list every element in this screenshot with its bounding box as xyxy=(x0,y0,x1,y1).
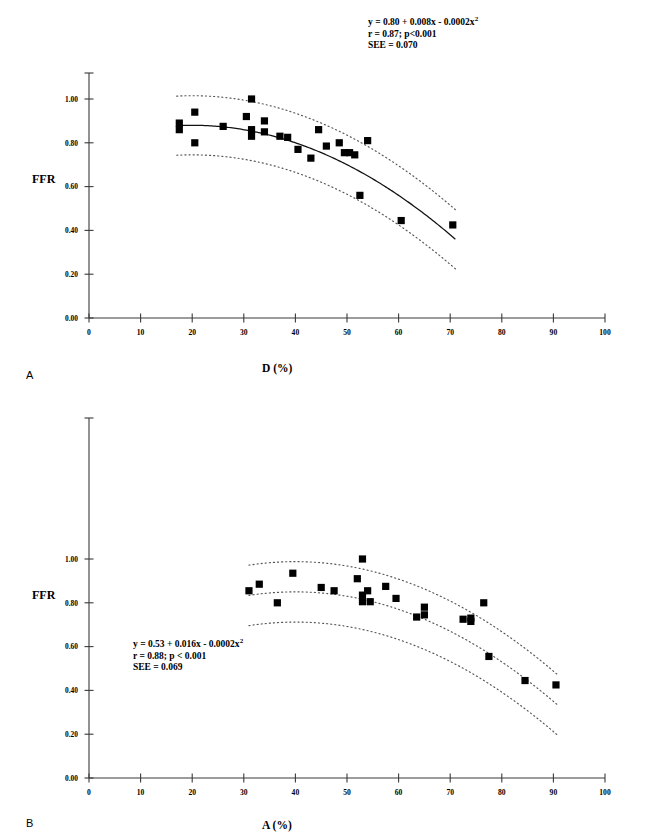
panel-a-see: SEE = 0.070 xyxy=(368,40,478,52)
panel-a: y = 0.80 + 0.008x - 0.0002x2 r = 0.87; p… xyxy=(0,0,672,400)
data-point xyxy=(359,598,366,605)
data-point xyxy=(243,113,250,120)
regression-line xyxy=(177,125,456,239)
data-point xyxy=(261,117,268,124)
x-tick-label: 100 xyxy=(599,788,611,797)
data-point xyxy=(315,126,322,133)
panel-a-x-axis-title: D (%) xyxy=(262,362,292,374)
data-point xyxy=(364,137,371,144)
data-point xyxy=(351,151,358,158)
y-tick-label: 1.00 xyxy=(65,95,78,104)
x-tick-label: 80 xyxy=(498,788,506,797)
data-point xyxy=(276,133,283,140)
data-point xyxy=(421,611,428,618)
x-tick-label: 30 xyxy=(240,328,248,337)
panel-b-annotation: y = 0.53 + 0.016x - 0.0002x2 r = 0.88; p… xyxy=(133,636,243,674)
data-point xyxy=(354,575,361,582)
panel-b-plot: 0.000.200.400.600.801.000102030405060708… xyxy=(0,400,672,836)
y-tick-label: 0.20 xyxy=(65,730,78,739)
x-tick-label: 10 xyxy=(137,328,145,337)
panel-b-see: SEE = 0.069 xyxy=(133,662,243,674)
data-point xyxy=(521,677,528,684)
y-tick-label: 1.00 xyxy=(65,555,78,564)
data-point xyxy=(485,653,492,660)
panel-a-correlation: r = 0.87; p<0.001 xyxy=(368,29,478,41)
x-tick-label: 80 xyxy=(498,328,506,337)
data-point xyxy=(256,581,263,588)
y-tick-label: 0.60 xyxy=(65,642,78,651)
x-tick-label: 10 xyxy=(137,788,145,797)
x-tick-label: 100 xyxy=(599,328,611,337)
panel-b-letter: B xyxy=(26,817,33,829)
data-point xyxy=(294,146,301,153)
x-tick-label: 30 xyxy=(240,788,248,797)
panel-a-annotation: y = 0.80 + 0.008x - 0.0002x2 r = 0.87; p… xyxy=(368,14,478,52)
data-point xyxy=(336,139,343,146)
x-tick-label: 90 xyxy=(550,788,558,797)
y-tick-label: 0.80 xyxy=(65,599,78,608)
y-tick-label: 0.00 xyxy=(65,774,78,783)
x-tick-label: 60 xyxy=(395,328,403,337)
data-point xyxy=(413,613,420,620)
upper-confidence-band xyxy=(249,562,559,676)
y-tick-label: 0.40 xyxy=(65,686,78,695)
panel-a-plot: 0.000.200.400.600.801.000102030405060708… xyxy=(0,0,672,400)
x-tick-label: 50 xyxy=(343,788,351,797)
data-point xyxy=(367,598,374,605)
data-point xyxy=(284,134,291,141)
data-point xyxy=(359,555,366,562)
data-point xyxy=(359,592,366,599)
x-tick-label: 60 xyxy=(395,788,403,797)
data-point xyxy=(331,587,338,594)
x-tick-label: 70 xyxy=(446,328,454,337)
data-point xyxy=(307,155,314,162)
data-point xyxy=(176,126,183,133)
data-point xyxy=(318,584,325,591)
data-point xyxy=(552,681,559,688)
panel-a-equation: y = 0.80 + 0.008x - 0.0002x2 xyxy=(368,14,478,29)
panel-b-x-axis-title: A (%) xyxy=(262,819,292,831)
data-point xyxy=(274,599,281,606)
data-point xyxy=(480,599,487,606)
data-point xyxy=(323,142,330,149)
x-tick-label: 50 xyxy=(343,328,351,337)
x-tick-label: 70 xyxy=(446,788,454,797)
y-tick-label: 0.00 xyxy=(65,314,78,323)
panel-b-correlation: r = 0.88; p < 0.001 xyxy=(133,651,243,663)
panel-b-y-axis-label: FFR xyxy=(32,588,55,603)
x-tick-label: 40 xyxy=(292,788,300,797)
x-tick-label: 90 xyxy=(550,328,558,337)
y-tick-label: 0.80 xyxy=(65,139,78,148)
data-point xyxy=(449,221,456,228)
data-point xyxy=(248,133,255,140)
y-tick-label: 0.40 xyxy=(65,226,78,235)
data-point xyxy=(356,192,363,199)
data-point xyxy=(191,109,198,116)
x-tick-label: 20 xyxy=(188,328,196,337)
data-point xyxy=(248,95,255,102)
x-tick-label: 40 xyxy=(292,328,300,337)
x-tick-label: 0 xyxy=(87,788,91,797)
panel-b: y = 0.53 + 0.016x - 0.0002x2 r = 0.88; p… xyxy=(0,400,672,836)
data-point xyxy=(289,570,296,577)
y-tick-label: 0.20 xyxy=(65,270,78,279)
data-point xyxy=(392,595,399,602)
data-point xyxy=(191,139,198,146)
lower-confidence-band xyxy=(249,622,559,736)
lower-confidence-band xyxy=(177,155,456,269)
data-point xyxy=(248,126,255,133)
x-tick-label: 0 xyxy=(87,328,91,337)
data-point xyxy=(398,217,405,224)
regression-line xyxy=(249,592,559,706)
y-tick-label: 0.60 xyxy=(65,182,78,191)
panel-a-y-axis-label: FFR xyxy=(32,172,55,187)
data-point xyxy=(261,128,268,135)
x-tick-label: 20 xyxy=(188,788,196,797)
panel-a-letter: A xyxy=(26,369,33,381)
data-point xyxy=(421,604,428,611)
data-point xyxy=(460,616,467,623)
upper-confidence-band xyxy=(177,96,456,210)
data-point xyxy=(176,119,183,126)
panel-b-equation: y = 0.53 + 0.016x - 0.0002x2 xyxy=(133,636,243,651)
data-point xyxy=(467,618,474,625)
